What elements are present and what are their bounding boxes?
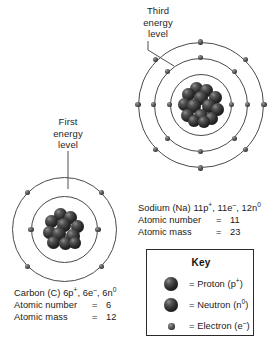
key-title: Key: [147, 257, 255, 268]
row-equals: =: [92, 312, 97, 324]
proton-sphere-icon: [164, 277, 178, 291]
sodium-atomic-number-row: Atomic number = 11: [138, 215, 261, 227]
carbon-shell1-electron: [95, 227, 100, 232]
sodium-shell2-electron: [165, 69, 170, 74]
atomic-structure-figure: Third energy level: [0, 0, 277, 358]
row-equals: =: [216, 215, 221, 227]
row-value: 23: [230, 227, 240, 239]
carbon-info-block: Carbon (C) 6p+, 6e–, 6n0 Atomic number =…: [14, 288, 116, 323]
sodium-shell3-electron: [153, 147, 158, 152]
row-label: Atomic number: [138, 215, 201, 227]
electron-sphere-icon: [168, 323, 175, 330]
nucleon-sphere: [198, 116, 210, 128]
callout-third-energy-level: Third energy level: [126, 5, 190, 40]
sodium-info-block: Sodium (Na) 11p+, 11e–, 12n0 Atomic numb…: [138, 203, 261, 238]
nucleon-sphere: [69, 237, 81, 249]
row-equals: =: [216, 227, 221, 239]
key-legend-box: Key = Proton (p+) = Neutron (n0) = Elect…: [146, 249, 254, 336]
carbon-shell2-electron: [25, 190, 30, 195]
sodium-shell3-electron: [243, 147, 248, 152]
carbon-shell1-electron: [28, 227, 33, 232]
sodium-shell2-electron: [232, 136, 237, 141]
sodium-shell2-electron: [232, 69, 237, 74]
neutron-sphere-icon: [164, 298, 178, 312]
callout-line: Third: [147, 5, 169, 16]
sodium-nucleus: [178, 82, 224, 128]
row-label: Atomic number: [14, 300, 77, 312]
row-value: 12: [106, 312, 116, 324]
sodium-shell3-electron: [261, 102, 266, 107]
carbon-nucleus: [43, 208, 86, 251]
callout-line: energy: [53, 128, 83, 139]
key-item-neutron: = Neutron (n0): [147, 296, 255, 314]
sodium-atomic-mass-row: Atomic mass = 23: [138, 227, 261, 239]
sodium-composition-line: Sodium (Na) 11p+, 11e–, 12n0: [138, 203, 261, 215]
key-item-electron-label: = Electron (e–): [189, 317, 250, 335]
carbon-atomic-number-row: Atomic number = 6: [14, 300, 116, 312]
sodium-shell3-electron: [243, 57, 248, 62]
sodium-atom-diagram: [138, 42, 264, 168]
key-item-proton-label: = Proton (p+): [189, 275, 243, 293]
callout-line: level: [148, 28, 168, 39]
carbon-shell2-electron: [99, 264, 104, 269]
key-item-electron: = Electron (e–): [147, 317, 255, 335]
callout-line: First: [59, 116, 78, 127]
key-item-proton: = Proton (p+): [147, 275, 255, 293]
row-equals: =: [92, 300, 97, 312]
carbon-atom-diagram: [12, 177, 117, 282]
callout-line: level: [58, 139, 78, 150]
carbon-composition-line: Carbon (C) 6p+, 6e–, 6n0: [14, 288, 116, 300]
callout-line: energy: [143, 17, 173, 28]
row-label: Atomic mass: [138, 227, 192, 239]
row-value: 11: [230, 215, 240, 227]
row-value: 6: [106, 300, 111, 312]
sodium-shell2-electron: [165, 136, 170, 141]
key-item-neutron-label: = Neutron (n0): [189, 296, 248, 314]
callout-first-energy-level: First energy level: [36, 116, 100, 151]
sodium-shell3-electron: [198, 165, 203, 170]
carbon-atomic-mass-row: Atomic mass = 12: [14, 312, 116, 324]
row-label: Atomic mass: [14, 312, 68, 324]
